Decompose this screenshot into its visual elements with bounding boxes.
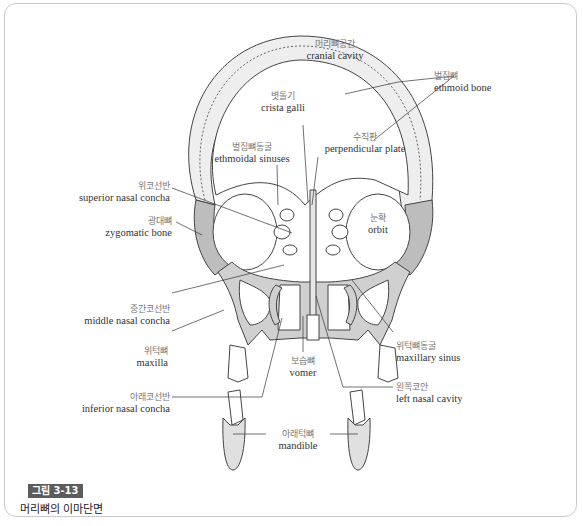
label-maxillary-sinus: 위턱뼈동굴 maxillary sinus <box>396 340 496 364</box>
label-maxilla: 위턱뼈 maxilla <box>100 345 168 369</box>
left-orbit <box>213 194 277 270</box>
label-crista-galli: 볏돌기 crista galli <box>238 90 328 114</box>
right-mandible <box>348 418 370 470</box>
label-ethmoidal-sinuses: 벌집뼈동굴 ethmoidal sinuses <box>202 141 302 165</box>
label-inferior-nasal-concha: 아래코선반 inferior nasal concha <box>40 391 170 415</box>
label-ethmoid-bone: 벌집뼈 ethmoid bone <box>434 70 544 94</box>
label-superior-nasal-concha: 위코선반 superior nasal concha <box>40 180 170 204</box>
label-orbit: 눈확 orbit <box>358 212 398 236</box>
nasal-septum <box>310 190 316 320</box>
label-middle-nasal-concha: 중간코선반 middle nasal concha <box>40 303 170 327</box>
label-vomer: 보습뼈 vomer <box>278 355 328 379</box>
left-mandible <box>223 418 245 470</box>
label-left-nasal-cavity: 왼쪽코안 left nasal cavity <box>396 381 496 405</box>
label-zygomatic-bone: 광대뼈 zygomatic bone <box>60 215 172 239</box>
figure-caption: 머리뼈의 이마단면 <box>20 500 104 516</box>
label-perpendicular-plate: 수직판 perpendicular plate <box>310 131 420 155</box>
label-cranial-cavity: 머리뼈공간 cranial cavity <box>290 38 380 62</box>
figure-number-badge: 그림 3-13 <box>28 484 83 498</box>
label-mandible: 아래턱뼈 mandible <box>266 428 330 452</box>
